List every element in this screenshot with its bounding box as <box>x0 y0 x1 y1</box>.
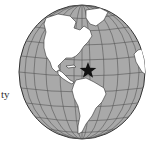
globe-figure <box>0 0 152 149</box>
